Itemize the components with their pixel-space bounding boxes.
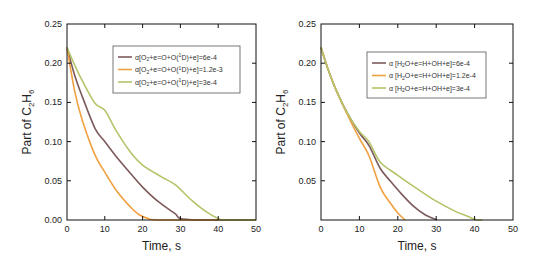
- y-tick-label: 0.05: [44, 176, 62, 186]
- legend-text-part: α [H: [389, 85, 402, 93]
- y-axis-title-main: Part of C: [274, 107, 288, 155]
- y-tick-label: 0.10: [298, 137, 316, 147]
- chart-panel-2: 010203040500.050.100.150.200.25Time, sPa…: [274, 19, 518, 253]
- x-tick-label: 0: [318, 224, 323, 234]
- x-tick-label: 20: [393, 224, 403, 234]
- chart-panel-1: 010203040500.000.050.100.150.200.25Time,…: [20, 19, 261, 253]
- legend-text-part: α [H: [389, 72, 402, 80]
- y-axis-title-mid: H: [274, 94, 288, 103]
- legend-text-part: D)+e]=3e-4: [181, 79, 217, 87]
- legend-text-part: α[O: [135, 79, 147, 87]
- legend-text-part: O+e=H+OH+e]=1.2e-4: [405, 72, 476, 80]
- legend-text-part: O+e=H+OH+e]=3e-4: [405, 85, 470, 93]
- x-tick-label: 50: [251, 224, 261, 234]
- legend-text-part: D)+e]=1.2e-3: [181, 66, 222, 74]
- x-tick-label: 40: [213, 224, 223, 234]
- x-axis-title: Time, s: [398, 239, 437, 253]
- legend-text-part: α[O: [135, 66, 147, 74]
- y-tick-label: 0.20: [298, 58, 316, 68]
- legend-text-part: +e=O+O(: [149, 66, 179, 74]
- x-tick-label: 20: [138, 224, 148, 234]
- figure: 010203040500.000.050.100.150.200.25Time,…: [0, 0, 536, 267]
- y-tick-label: 0.15: [44, 97, 62, 107]
- x-axis-title: Time, s: [142, 239, 181, 253]
- y-tick-label: 0.10: [44, 137, 62, 147]
- x-tick-label: 0: [64, 224, 69, 234]
- y-axis-title: Part of C2H6: [20, 89, 36, 154]
- y-tick-label: 0.05: [298, 176, 316, 186]
- x-tick-label: 30: [175, 224, 185, 234]
- legend-text-part: O+e=H+OH+e]=6e-4: [405, 60, 470, 68]
- y-tick-label: 0.25: [44, 19, 62, 29]
- x-tick-label: 10: [354, 224, 364, 234]
- y-axis-title: Part of C2H6: [274, 89, 290, 154]
- y-axis-title-sub: 6: [281, 89, 290, 94]
- legend-text-part: α [H: [389, 60, 402, 68]
- legend-text-part: +e=O+O(: [149, 54, 179, 62]
- legend: α[O2+e=O+O(1D)+e]=6e-4α[O2+e=O+O(1D)+e]=…: [113, 46, 240, 93]
- x-tick-label: 30: [431, 224, 441, 234]
- legend-text-part: +e=O+O(: [149, 79, 179, 87]
- y-tick-label: 0.20: [44, 58, 62, 68]
- x-tick-label: 40: [470, 224, 480, 234]
- x-tick-label: 50: [508, 224, 518, 234]
- y-axis-title-main: Part of C: [20, 107, 34, 155]
- x-tick-label: 10: [100, 224, 110, 234]
- legend: α [H2O+e=H+OH+e]=6e-4α [H2O+e=H+OH+e]=1.…: [367, 52, 486, 98]
- legend-text-part: α[O: [135, 54, 147, 62]
- legend-text-part: D)+e]=6e-4: [181, 54, 217, 62]
- y-axis-title-mid: H: [20, 94, 34, 103]
- y-tick-label: 0.00: [44, 215, 62, 225]
- y-tick-label: 0.15: [298, 97, 316, 107]
- y-tick-label: 0.25: [298, 19, 316, 29]
- y-axis-title-sub: 6: [27, 89, 36, 94]
